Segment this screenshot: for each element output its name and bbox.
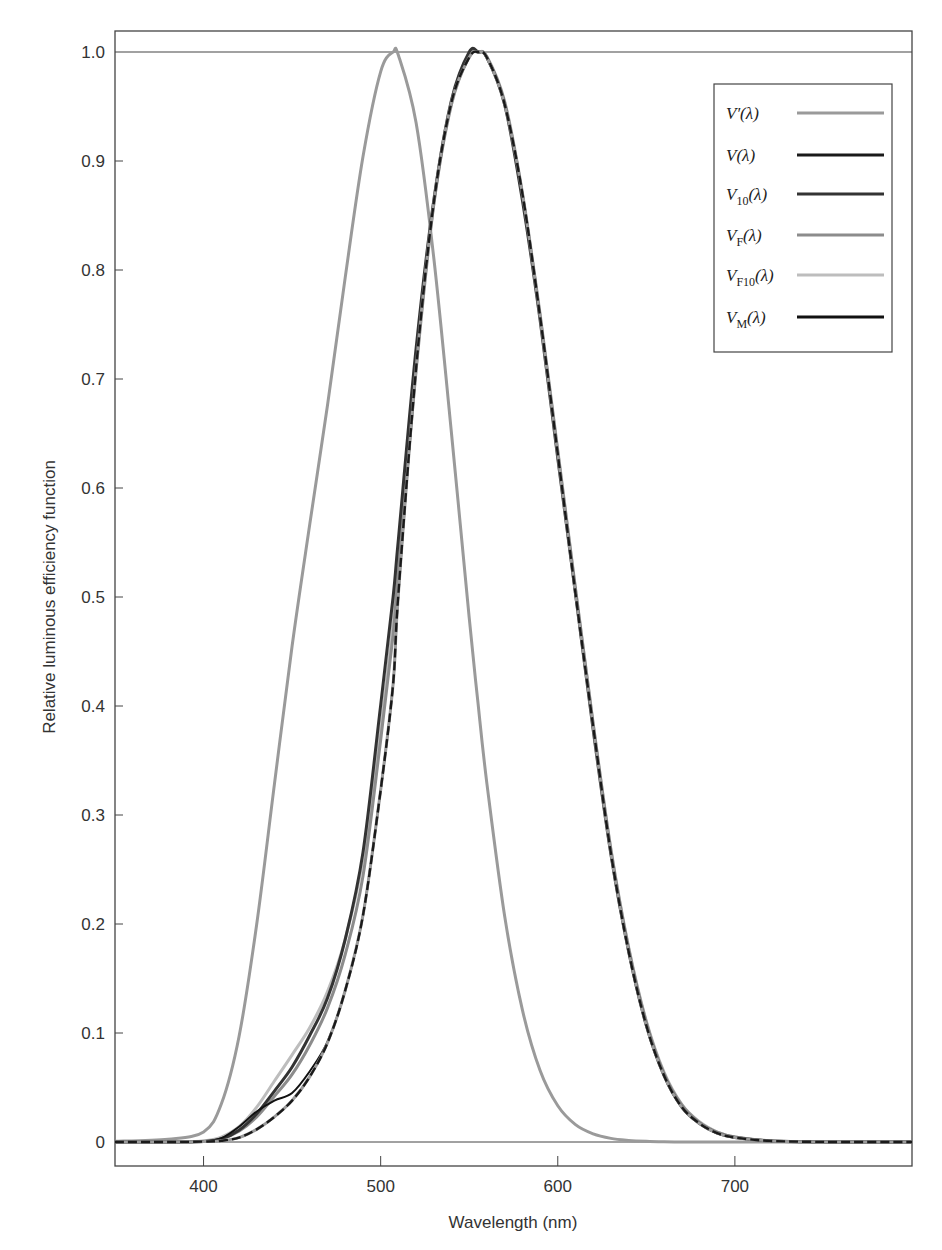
y-tick-label: 0.8 [81,261,105,280]
y-tick-label: 0.9 [81,152,105,171]
y-tick-label: 0.5 [81,588,105,607]
x-tick-label: 400 [189,1177,217,1196]
luminous-efficiency-chart: 00.10.20.30.40.50.60.70.80.91.0 40050060… [0,0,942,1250]
y-axis: 00.10.20.30.40.50.60.70.80.91.0 [81,43,123,1152]
legend-label: V′(λ) [726,104,759,123]
y-axis-title: Relative luminous efficiency function [40,460,59,734]
x-tick-label: 500 [366,1177,394,1196]
y-tick-label: 0.6 [81,479,105,498]
y-tick-label: 0.1 [81,1024,105,1043]
x-tick-label: 600 [544,1177,572,1196]
x-axis: 400500600700 [189,1156,749,1196]
x-tick-label: 700 [721,1177,749,1196]
x-axis-title: Wavelength (nm) [449,1213,578,1232]
y-tick-label: 1.0 [81,43,105,62]
y-tick-label: 0.4 [81,697,105,716]
legend-label: V(λ) [726,146,755,165]
legend: V′(λ)V(λ)V10(λ)VF(λ)VF10(λ)VM(λ) [714,84,892,352]
legend-box [714,84,892,352]
y-tick-label: 0.2 [81,915,105,934]
y-tick-label: 0.3 [81,806,105,825]
y-tick-label: 0.7 [81,370,105,389]
y-tick-label: 0 [96,1133,105,1152]
